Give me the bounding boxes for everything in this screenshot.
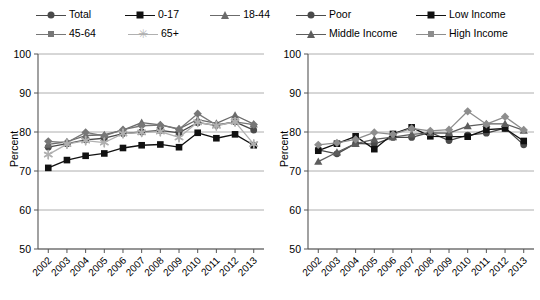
- legend-label: 18-44: [243, 9, 270, 21]
- legend-item-poor: Poor: [270, 6, 416, 24]
- svg-text:2007: 2007: [124, 254, 148, 278]
- svg-text:70: 70: [289, 165, 301, 177]
- svg-text:2002: 2002: [30, 254, 54, 278]
- svg-text:2009: 2009: [161, 254, 185, 278]
- svg-text:2010: 2010: [450, 254, 474, 278]
- legend-income-groups: Poor Low Income Middle Income High Incom…: [270, 4, 540, 44]
- legend-label: 0-17: [158, 9, 179, 21]
- legend-item-high-income: High Income: [416, 25, 508, 43]
- triangle-marker-icon: [296, 28, 326, 40]
- svg-text:2006: 2006: [105, 254, 129, 278]
- svg-text:50: 50: [19, 243, 31, 255]
- square-marker-icon: [125, 9, 155, 21]
- svg-text:100: 100: [13, 48, 31, 60]
- svg-text:90: 90: [289, 87, 301, 99]
- svg-text:2004: 2004: [68, 254, 92, 278]
- legend-item-65plus: ✳ 65+: [128, 25, 179, 43]
- legend-item-0-17: 0-17: [125, 6, 210, 24]
- svg-text:60: 60: [19, 204, 31, 216]
- svg-text:50: 50: [289, 243, 301, 255]
- circle-marker-icon: [296, 9, 326, 21]
- circle-marker-icon: [36, 9, 66, 21]
- svg-text:2003: 2003: [49, 254, 73, 278]
- svg-text:90: 90: [19, 87, 31, 99]
- square-marker-icon: [416, 9, 446, 21]
- star-marker-icon: ✳: [128, 28, 158, 40]
- plot-area-income-groups: Percent 50607080901002002200320042005200…: [270, 48, 540, 300]
- legend-label: 65+: [161, 28, 179, 40]
- legend-label: Low Income: [449, 9, 506, 21]
- chart-panel-age-groups: Total 0-17 18-44 45-64 ✳ 65+: [0, 0, 270, 300]
- triangle-marker-icon: [210, 9, 240, 21]
- svg-text:2010: 2010: [180, 254, 204, 278]
- svg-text:2006: 2006: [375, 254, 399, 278]
- svg-text:2012: 2012: [217, 254, 241, 278]
- svg-text:100: 100: [283, 48, 301, 60]
- chart-panel-income-groups: Poor Low Income Middle Income High Incom…: [270, 0, 540, 300]
- svg-text:2005: 2005: [86, 254, 110, 278]
- svg-text:2005: 2005: [356, 254, 380, 278]
- svg-text:2009: 2009: [431, 254, 455, 278]
- svg-text:80: 80: [19, 126, 31, 138]
- svg-text:2004: 2004: [338, 254, 362, 278]
- legend-item-low-income: Low Income: [416, 6, 506, 24]
- svg-text:2008: 2008: [412, 254, 436, 278]
- diamond-marker-icon: [36, 28, 66, 40]
- legend-item-18-44: 18-44: [210, 6, 270, 24]
- svg-text:80: 80: [289, 126, 301, 138]
- legend-label: Total: [69, 9, 91, 21]
- legend-item-45-64: 45-64: [0, 25, 128, 43]
- legend-age-groups: Total 0-17 18-44 45-64 ✳ 65+: [0, 4, 270, 44]
- svg-text:2002: 2002: [300, 254, 324, 278]
- dual-line-chart-figure: Total 0-17 18-44 45-64 ✳ 65+: [0, 0, 540, 300]
- legend-label: Middle Income: [329, 28, 397, 40]
- svg-text:2011: 2011: [199, 254, 222, 277]
- legend-item-total: Total: [0, 6, 125, 24]
- svg-text:2013: 2013: [236, 254, 260, 278]
- svg-text:60: 60: [289, 204, 301, 216]
- diamond-marker-icon: [416, 28, 446, 40]
- svg-text:2011: 2011: [469, 254, 492, 277]
- svg-text:70: 70: [19, 165, 31, 177]
- svg-text:2003: 2003: [319, 254, 343, 278]
- svg-text:2013: 2013: [506, 254, 530, 278]
- chart-svg-income-groups: 5060708090100200220032004200520062007200…: [270, 48, 540, 300]
- plot-area-age-groups: Percent 50607080901002002200320042005200…: [0, 48, 270, 300]
- svg-text:2007: 2007: [394, 254, 418, 278]
- svg-text:2012: 2012: [487, 254, 511, 278]
- legend-item-middle-income: Middle Income: [270, 25, 416, 43]
- svg-text:2008: 2008: [142, 254, 166, 278]
- legend-label: High Income: [449, 28, 508, 40]
- chart-svg-age-groups: 5060708090100200220032004200520062007200…: [0, 48, 270, 300]
- legend-label: Poor: [329, 9, 351, 21]
- legend-label: 45-64: [69, 28, 96, 40]
